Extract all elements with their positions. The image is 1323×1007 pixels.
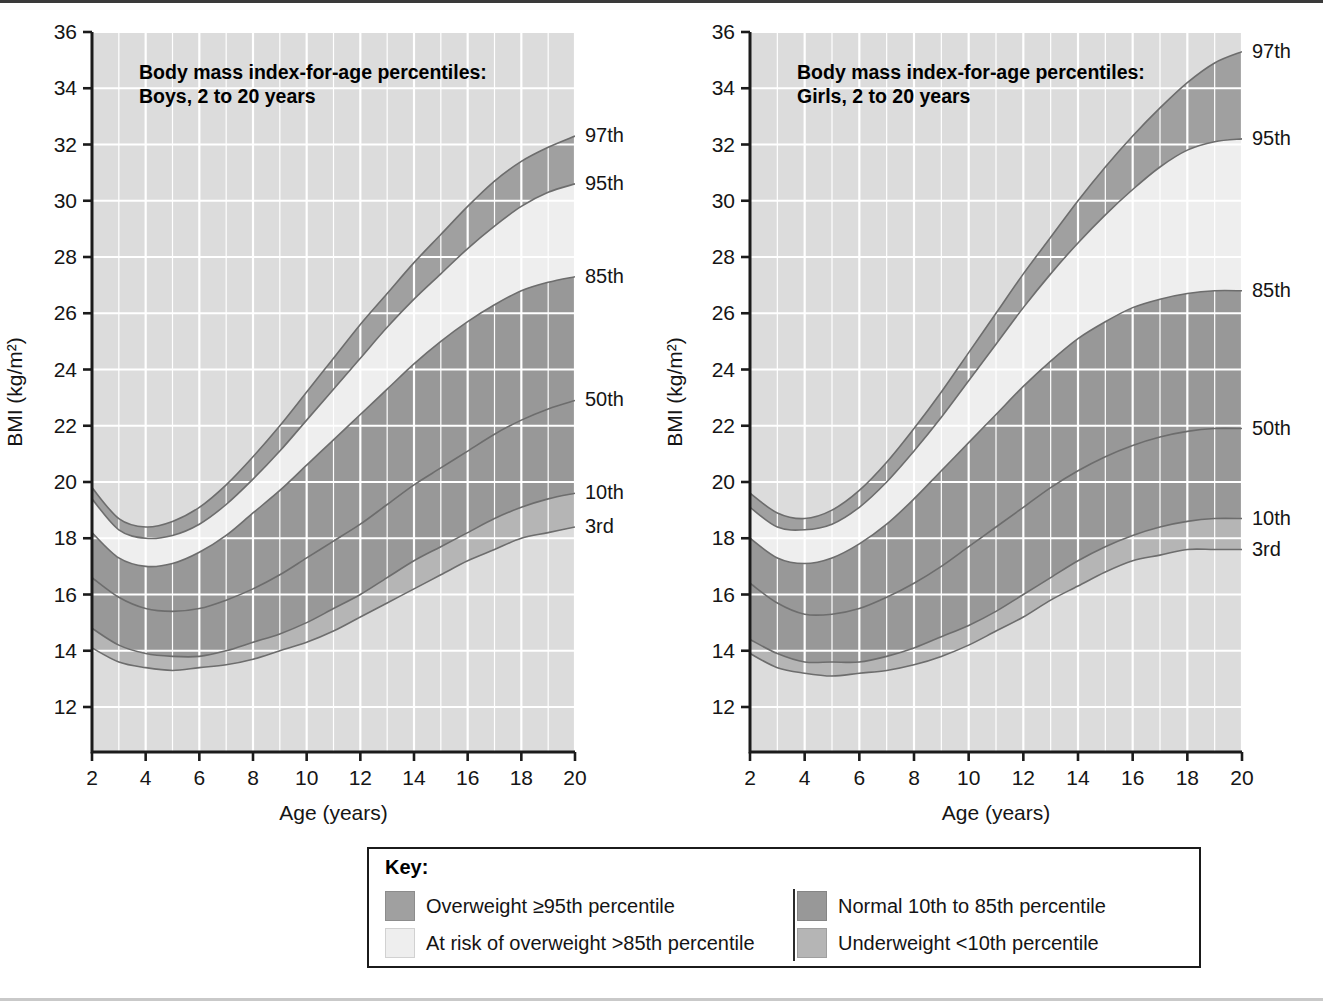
y-tick-label: 18 <box>54 526 77 549</box>
y-tick-label: 34 <box>54 76 78 99</box>
y-tick-label: 36 <box>54 20 77 43</box>
y-tick-label: 28 <box>54 245 77 268</box>
y-tick-label: 22 <box>712 414 735 437</box>
y-tick-label: 30 <box>712 189 735 212</box>
x-tick-label: 8 <box>908 766 920 789</box>
key-label-normal: Normal 10th to 85th percentile <box>838 896 1106 916</box>
x-tick-label: 16 <box>1121 766 1144 789</box>
key-swatch-normal <box>797 891 827 921</box>
key-label-overweight: Overweight ≥95th percentile <box>426 896 675 916</box>
y-tick-label: 34 <box>712 76 736 99</box>
key-label-underweight: Underweight <10th percentile <box>838 933 1099 953</box>
x-tick-label: 18 <box>1176 766 1199 789</box>
key-swatch-at-risk <box>385 928 415 958</box>
percentile-label-85th: 85th <box>585 265 624 287</box>
key-column-right: Normal 10th to 85th percentile Underweig… <box>797 887 1187 961</box>
x-tick-label: 8 <box>247 766 259 789</box>
percentile-label-97th: 97th <box>1252 40 1291 62</box>
percentile-label-10th: 10th <box>1252 507 1291 529</box>
percentile-label-95th: 95th <box>585 172 624 194</box>
chart-title-line1: Body mass index-for-age percentiles: <box>139 61 487 83</box>
x-tick-label: 18 <box>510 766 533 789</box>
key-label-at-risk: At risk of overweight >85th percentile <box>426 933 755 953</box>
key-swatch-underweight <box>797 928 827 958</box>
x-tick-label: 10 <box>957 766 980 789</box>
x-tick-label: 12 <box>349 766 372 789</box>
x-axis-title: Age (years) <box>279 801 388 824</box>
y-tick-label: 14 <box>712 639 736 662</box>
key-swatch-overweight <box>385 891 415 921</box>
y-tick-label: 24 <box>712 358 736 381</box>
percentile-label-85th: 85th <box>1252 279 1291 301</box>
y-tick-label: 22 <box>54 414 77 437</box>
y-tick-label: 32 <box>712 133 735 156</box>
x-tick-label: 2 <box>744 766 756 789</box>
chart-svg-girls: 1214161820222426283032343624681012141618… <box>660 0 1323 830</box>
percentile-label-50th: 50th <box>1252 417 1291 439</box>
y-tick-label: 16 <box>54 583 77 606</box>
y-tick-label: 20 <box>54 470 77 493</box>
percentile-label-95th: 95th <box>1252 127 1291 149</box>
chart-title-line2: Girls, 2 to 20 years <box>797 85 971 107</box>
y-tick-label: 36 <box>712 20 735 43</box>
key-legend-box: Key: Overweight ≥95th percentile At risk… <box>367 847 1201 968</box>
x-tick-label: 2 <box>86 766 98 789</box>
chart-girls: 1214161820222426283032343624681012141618… <box>660 0 1323 830</box>
y-axis-title: BMI (kg/m²) <box>3 337 26 447</box>
key-item-at-risk: At risk of overweight >85th percentile <box>385 924 785 961</box>
x-tick-label: 20 <box>1230 766 1253 789</box>
y-tick-label: 12 <box>54 695 77 718</box>
x-tick-label: 4 <box>799 766 811 789</box>
x-tick-label: 16 <box>456 766 479 789</box>
key-item-underweight: Underweight <10th percentile <box>797 924 1187 961</box>
key-column-divider <box>793 889 795 961</box>
y-tick-label: 26 <box>712 301 735 324</box>
key-item-overweight: Overweight ≥95th percentile <box>385 887 785 924</box>
x-tick-label: 6 <box>853 766 865 789</box>
bottom-divider-rule <box>0 998 1323 1001</box>
key-column-left: Overweight ≥95th percentile At risk of o… <box>385 887 785 961</box>
x-tick-label: 14 <box>1066 766 1090 789</box>
y-tick-label: 14 <box>54 639 78 662</box>
key-title: Key: <box>385 856 428 879</box>
y-tick-label: 16 <box>712 583 735 606</box>
y-tick-label: 26 <box>54 301 77 324</box>
percentile-label-10th: 10th <box>585 481 624 503</box>
y-axis-title: BMI (kg/m²) <box>663 337 686 447</box>
y-tick-label: 32 <box>54 133 77 156</box>
y-tick-label: 12 <box>712 695 735 718</box>
x-tick-label: 12 <box>1012 766 1035 789</box>
percentile-label-50th: 50th <box>585 388 624 410</box>
key-item-normal: Normal 10th to 85th percentile <box>797 887 1187 924</box>
x-axis-title: Age (years) <box>942 801 1051 824</box>
percentile-label-3rd: 3rd <box>1252 538 1281 560</box>
x-tick-label: 14 <box>402 766 426 789</box>
percentile-label-3rd: 3rd <box>585 515 614 537</box>
chart-title-line1: Body mass index-for-age percentiles: <box>797 61 1145 83</box>
y-tick-label: 24 <box>54 358 78 381</box>
y-tick-label: 20 <box>712 470 735 493</box>
percentile-label-97th: 97th <box>585 124 624 146</box>
y-tick-label: 18 <box>712 526 735 549</box>
x-tick-label: 10 <box>295 766 318 789</box>
x-tick-label: 4 <box>140 766 152 789</box>
chart-title-line2: Boys, 2 to 20 years <box>139 85 316 107</box>
y-tick-label: 30 <box>54 189 77 212</box>
x-tick-label: 20 <box>563 766 586 789</box>
chart-boys: 1214161820222426283032343624681012141618… <box>0 0 660 830</box>
y-tick-label: 28 <box>712 245 735 268</box>
chart-svg-boys: 1214161820222426283032343624681012141618… <box>0 0 660 830</box>
x-tick-label: 6 <box>193 766 205 789</box>
